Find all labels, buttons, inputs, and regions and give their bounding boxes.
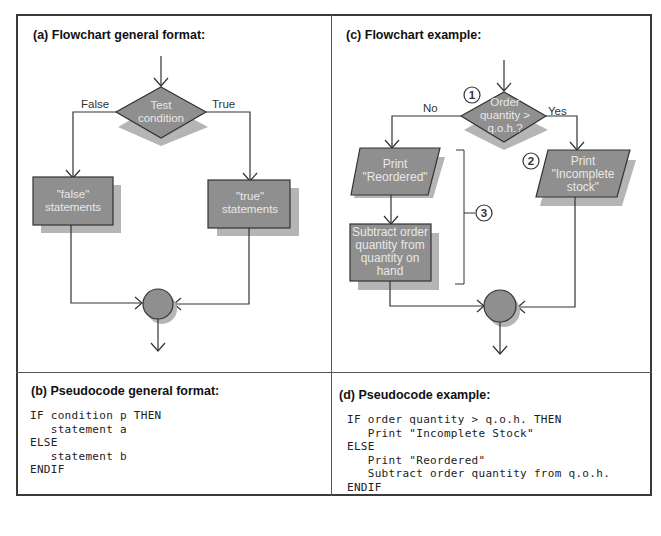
no-label: No — [423, 102, 438, 114]
false-box-line2: statements — [45, 201, 101, 213]
print-reordered-line1: Print — [383, 157, 408, 171]
decision-label-line2: condition — [138, 112, 184, 124]
subtract-line4: hand — [377, 264, 404, 278]
print-reordered-line2: "Reordered" — [362, 170, 427, 184]
true-box-line1: "true" — [236, 190, 264, 202]
print-incomplete-line2: "Incomplete — [552, 167, 615, 181]
decision-line2: quantity > — [480, 109, 530, 121]
marker-3-label: 3 — [481, 207, 487, 219]
connector-circle — [143, 289, 173, 319]
decision-label-line1: Test — [150, 99, 172, 111]
subtract-line1: Subtract order — [352, 225, 428, 239]
print-incomplete-line3: stock" — [567, 180, 599, 194]
false-box-line1: "false" — [57, 188, 89, 200]
subtract-line2: quantity from — [355, 238, 424, 252]
marker-2-label: 2 — [528, 155, 534, 167]
panel-c-flowchart: Order quantity > q.o.h.? 1 No Yes Print … — [350, 60, 636, 354]
true-label: True — [212, 98, 235, 110]
subtract-line3: quantity on — [361, 251, 420, 265]
flowchart-canvas: Test condition False True "false" statem… — [0, 0, 661, 536]
false-label: False — [81, 98, 109, 110]
decision-line3: q.o.h.? — [487, 122, 522, 134]
panel-a-flowchart: Test condition False True "false" statem… — [33, 56, 299, 351]
marker-1-label: 1 — [469, 89, 476, 101]
yes-label: Yes — [548, 105, 567, 117]
decision-line1: Order — [490, 96, 520, 108]
connector-circle — [484, 290, 516, 322]
true-box-line2: statements — [222, 203, 278, 215]
print-incomplete-line1: Print — [571, 154, 596, 168]
